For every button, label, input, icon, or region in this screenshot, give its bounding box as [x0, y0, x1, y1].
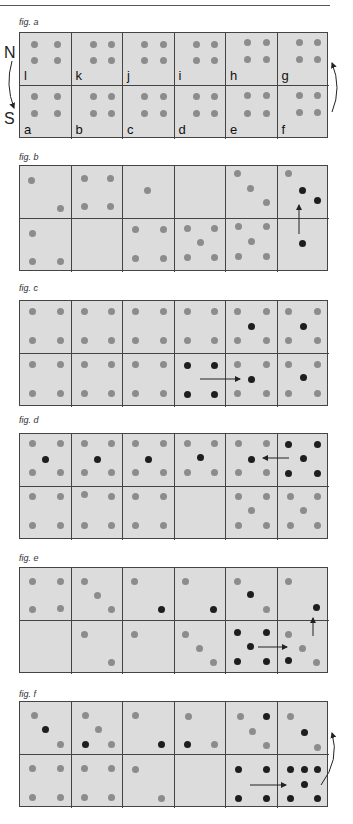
figure-label-d: fig. d: [19, 415, 39, 425]
gray-dot: [132, 766, 139, 773]
gray-dot: [184, 225, 191, 232]
gray-dot: [234, 337, 241, 344]
gray-dot: [81, 440, 88, 447]
gray-dot: [248, 507, 255, 514]
black-dot: [299, 240, 306, 247]
grid-cell: [278, 354, 330, 407]
gray-dot: [263, 39, 270, 46]
grid-cell: [72, 755, 124, 808]
gray-dot: [211, 57, 218, 64]
gray-dot: [211, 337, 218, 344]
gray-dot: [57, 308, 64, 315]
grid-cell: [123, 434, 175, 487]
gray-dot: [132, 440, 139, 447]
grid-cell: [175, 301, 227, 354]
gray-dot: [263, 110, 270, 117]
gray-dot: [81, 491, 88, 498]
grid-cell: d: [175, 86, 227, 139]
black-dot: [263, 766, 270, 773]
grid-cell: [278, 487, 330, 540]
gray-dot: [235, 253, 242, 260]
figure-grid-d: [19, 433, 328, 539]
gray-dot: [263, 606, 270, 613]
cell-letter: a: [24, 122, 31, 137]
grid-cell: [123, 755, 175, 808]
gray-dot: [160, 522, 167, 529]
gray-dot: [57, 258, 64, 265]
gray-dot: [28, 177, 35, 184]
grid-cell: [20, 755, 72, 808]
gray-dot: [90, 41, 97, 48]
figure-grid-f: [19, 701, 328, 807]
grid-cell: c: [123, 86, 175, 139]
gray-dot: [108, 741, 115, 748]
grid-cell: [175, 166, 227, 219]
gray-dot: [94, 592, 101, 599]
gray-dot: [108, 765, 115, 772]
grid-cell: [278, 219, 330, 272]
figure-label-e: fig. e: [19, 553, 39, 563]
gray-dot: [234, 361, 241, 368]
grid-cell: [20, 219, 72, 272]
gray-dot: [29, 765, 36, 772]
black-dot: [287, 795, 294, 802]
black-dot: [248, 323, 255, 330]
gray-dot: [235, 493, 242, 500]
gray-dot: [296, 39, 303, 46]
gray-dot: [313, 659, 320, 666]
black-dot: [94, 456, 101, 463]
cell-letter: e: [230, 122, 237, 137]
gray-dot: [57, 361, 64, 368]
black-dot: [184, 362, 191, 369]
grid-cell: [175, 568, 227, 621]
grid-cell: [20, 621, 72, 674]
black-dot: [263, 795, 270, 802]
gray-dot: [29, 606, 36, 613]
black-dot: [184, 741, 191, 748]
black-dot: [211, 391, 218, 398]
gray-dot: [81, 522, 88, 529]
gray-dot: [184, 308, 191, 315]
gray-dot: [29, 578, 36, 585]
grid-cell: [226, 301, 278, 354]
gray-dot: [285, 631, 292, 638]
cell-letter: d: [179, 122, 186, 137]
cell-letter: i: [179, 68, 182, 83]
gray-dot: [132, 522, 139, 529]
gray-dot: [131, 578, 138, 585]
grid-cell: [72, 434, 124, 487]
gray-dot: [160, 337, 167, 344]
grid-cell: [123, 621, 175, 674]
black-dot: [158, 606, 165, 613]
gray-dot: [193, 93, 200, 100]
gray-dot: [314, 56, 321, 63]
gray-dot: [141, 110, 148, 117]
gray-dot: [29, 230, 36, 237]
south-label: S: [4, 110, 15, 128]
gray-dot: [29, 440, 36, 447]
gray-dot: [57, 522, 64, 529]
grid-cell: [175, 219, 227, 272]
gray-dot: [263, 493, 270, 500]
grid-cell: g: [278, 33, 330, 86]
black-dot: [82, 741, 89, 748]
gray-dot: [263, 337, 270, 344]
gray-dot: [193, 110, 200, 117]
gray-dot: [108, 308, 115, 315]
black-dot: [300, 323, 307, 330]
gray-dot: [300, 507, 307, 514]
black-dot: [158, 741, 165, 748]
grid-cell: [226, 166, 278, 219]
gray-dot: [234, 390, 241, 397]
black-dot: [247, 643, 254, 650]
grid-cell: [278, 702, 330, 755]
figure-label-c: fig. c: [19, 283, 38, 293]
grid-cell: l: [20, 33, 72, 86]
gray-dot: [57, 440, 64, 447]
black-dot: [314, 470, 321, 477]
figure-grid-a: lkjihgabcdef: [19, 32, 328, 138]
gray-dot: [132, 226, 139, 233]
black-dot: [234, 629, 241, 636]
gray-dot: [263, 92, 270, 99]
cell-letter: f: [282, 122, 286, 137]
